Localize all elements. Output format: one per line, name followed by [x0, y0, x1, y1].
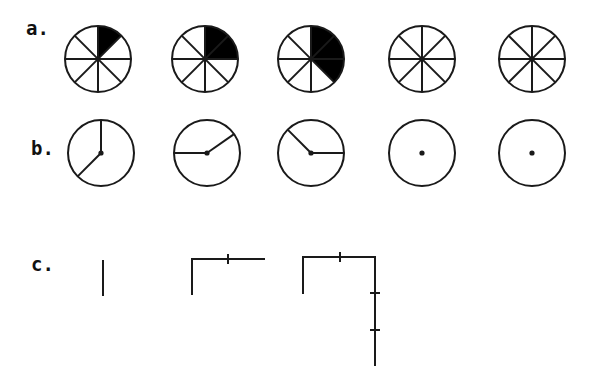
shaded-sector: [98, 26, 121, 59]
center-dot: [204, 150, 209, 155]
center-dot: [308, 150, 313, 155]
center-dot: [98, 150, 103, 155]
sector-circle-3: [278, 26, 344, 92]
row-c-path-3: [303, 252, 380, 366]
row-c-line-paths: [103, 252, 380, 366]
figure-canvas: [0, 0, 601, 371]
angle-circle-4: [389, 120, 455, 186]
radius-line: [288, 130, 311, 153]
center-dot: [529, 150, 534, 155]
center-dot: [419, 150, 424, 155]
sector-circle-4: [389, 26, 455, 92]
radius-line: [78, 153, 101, 176]
sector-circle-1: [65, 26, 131, 92]
angle-circle-3: [278, 120, 344, 186]
row-a-sector-circles: [65, 26, 565, 92]
radius-line: [207, 134, 234, 153]
angle-circle-5: [499, 120, 565, 186]
angle-circle-2: [174, 120, 240, 186]
row-c-path-2: [192, 254, 265, 295]
sector-circle-2: [172, 26, 238, 92]
sector-circle-5: [499, 26, 565, 92]
row-b-angle-circles: [68, 120, 565, 186]
angle-circle-1: [68, 120, 134, 186]
